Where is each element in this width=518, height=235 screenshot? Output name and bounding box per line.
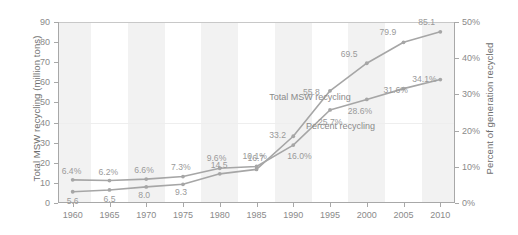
x-axis-tick-label: 1960 [58,210,88,220]
data-point [218,172,222,176]
y-axis-right-tick-mark [455,203,459,204]
data-point [291,134,295,138]
x-axis-tick-label: 1980 [205,210,235,220]
x-axis-tick-mark [220,203,221,207]
data-point [438,78,442,82]
y-axis-right-tick-label: 20% [462,126,480,136]
data-label: 16.0% [287,151,311,161]
y-axis-left-tick-mark [54,163,58,164]
data-point [144,177,148,181]
data-point [71,178,75,182]
y-axis-left-tick-label: 40 [0,118,50,128]
data-label: 6.4% [62,166,82,176]
x-axis-tick-mark [293,203,294,207]
plot-area: 5.66.58.09.314.516.733.255.869.579.985.1… [58,22,455,203]
y-axis-left-tick-mark [54,183,58,184]
data-label: 6.6% [134,165,154,175]
x-axis-tick-label: 2005 [389,210,419,220]
y-axis-right-tick-mark [455,22,459,23]
y-axis-left-tick-mark [54,102,58,103]
series-annotation: Total MSW recycling [269,92,351,102]
data-point [402,40,406,44]
y-axis-right-tick-mark [455,94,459,95]
y-axis-left-tick-label: 80 [0,37,50,47]
x-axis-tick-mark [183,203,184,207]
data-point [71,190,75,194]
y-axis-left-tick-label: 0 [0,198,50,208]
data-label: 6.2% [99,167,119,177]
x-axis-tick-label: 1995 [315,210,345,220]
y-axis-left-tick-label: 50 [0,97,50,107]
data-point [108,179,112,183]
x-axis-tick-label: 2000 [352,210,382,220]
y-axis-left-tick-label: 60 [0,77,50,87]
data-label: 9.6% [207,153,227,163]
y-axis-left-tick-label: 30 [0,138,50,148]
data-point [438,30,442,34]
x-axis-tick-label: 2010 [425,210,455,220]
y-axis-left-tick-mark [54,82,58,83]
data-label: 10.1% [243,151,267,161]
series-annotation: Percent recycling [306,121,375,131]
x-axis-tick-label: 1975 [168,210,198,220]
y-axis-right-tick-label: 40% [462,53,480,63]
y-axis-right-title: Percent of generation recycled [484,9,495,209]
data-label: 85.1 [418,17,435,27]
x-axis-tick-label: 1985 [242,210,272,220]
x-axis-tick-mark [367,203,368,207]
y-axis-right-tick-label: 30% [462,89,480,99]
x-axis-tick-mark [404,203,405,207]
data-point [181,175,185,179]
data-label: 69.5 [341,49,358,59]
x-axis-tick-mark [146,203,147,207]
data-point [365,61,369,65]
y-axis-right-tick-label: 0% [462,198,475,208]
y-axis-left-tick-label: 10 [0,178,50,188]
x-axis-tick-label: 1965 [95,210,125,220]
data-label: 7.3% [171,162,191,172]
x-axis-tick-label: 1970 [131,210,161,220]
x-axis-tick-mark [257,203,258,207]
data-point [328,108,332,112]
y-axis-left-tick-mark [54,62,58,63]
y-axis-right-tick-label: 10% [462,162,480,172]
y-axis-right-tick-mark [455,58,459,59]
data-label: 31.6% [384,85,408,95]
x-axis-tick-mark [440,203,441,207]
data-label: 28.6% [348,106,372,116]
data-point [181,182,185,186]
x-axis-tick-mark [73,203,74,207]
y-axis-left-tick-mark [54,123,58,124]
x-axis-tick-mark [110,203,111,207]
data-point [365,98,369,102]
data-label: 34.1% [412,74,436,84]
data-point [255,165,259,169]
y-axis-right-tick-mark [455,167,459,168]
recycling-chart: Total MSW recycling (million tons) Perce… [0,0,518,235]
y-axis-left-tick-mark [54,143,58,144]
data-point [144,185,148,189]
data-label: 9.3 [175,187,187,197]
data-point [108,188,112,192]
y-axis-left-tick-mark [54,22,58,23]
data-point [291,143,295,147]
y-axis-left-tick-label: 90 [0,17,50,27]
data-label: 79.9 [380,27,397,37]
data-label: 8.0 [138,190,150,200]
x-axis-tick-label: 1990 [278,210,308,220]
y-axis-left-tick-mark [54,203,58,204]
y-axis-right-tick-mark [455,131,459,132]
y-axis-right-tick-label: 50% [462,17,480,27]
y-axis-left-tick-label: 20 [0,158,50,168]
data-label: 33.2 [269,130,286,140]
y-axis-left-tick-label: 70 [0,57,50,67]
x-axis-tick-mark [330,203,331,207]
y-axis-left-tick-mark [54,42,58,43]
